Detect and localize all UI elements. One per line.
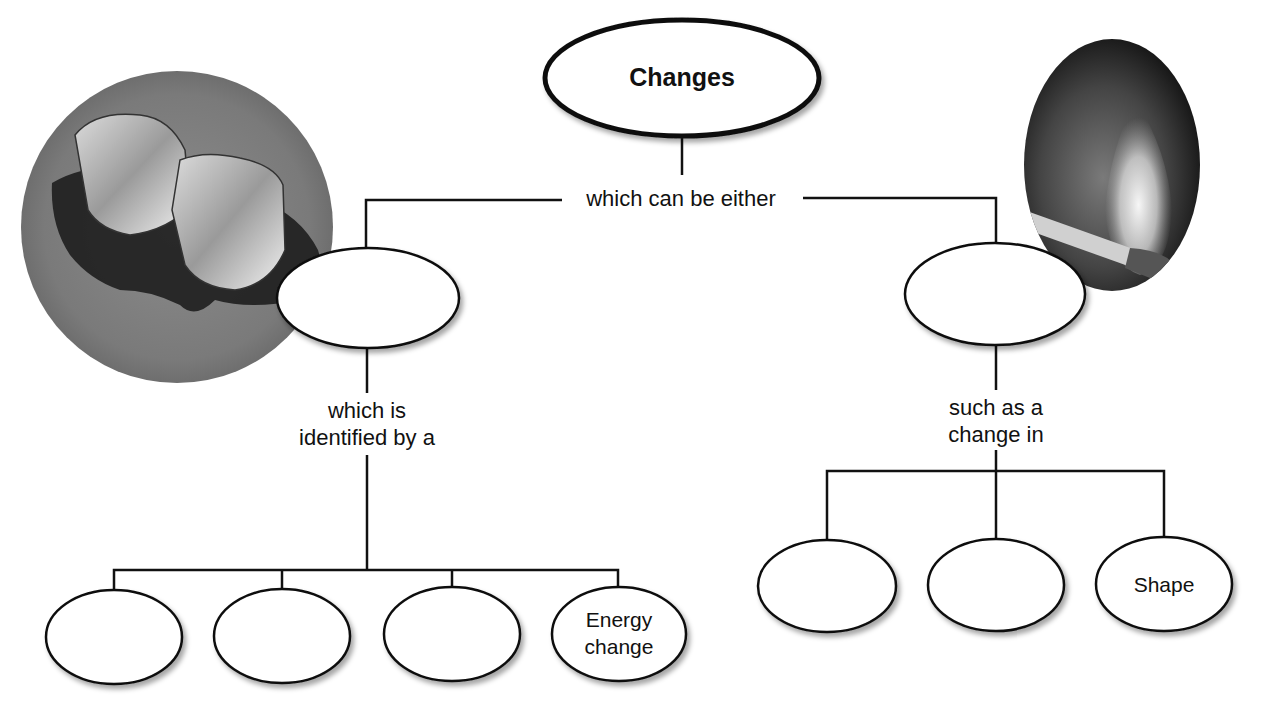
connector-such-as-a: such as a (916, 395, 1076, 421)
node-left-child-2[interactable] (214, 589, 350, 683)
connector-which-is: which is (287, 398, 447, 424)
node-right-child-1[interactable] (758, 540, 896, 632)
ice-cubes-photo (21, 71, 333, 383)
node-left-child-3[interactable] (384, 587, 520, 681)
node-right-blank[interactable] (905, 243, 1085, 345)
concept-map-canvas (0, 0, 1279, 705)
node-right-child-2[interactable] (928, 539, 1064, 631)
connector-identified-by-a: identified by a (287, 425, 447, 451)
title-changes: Changes (612, 64, 752, 90)
connector-which-can-be-either: which can be either (566, 186, 796, 212)
node-left-child-1[interactable] (46, 590, 182, 684)
node-left-blank[interactable] (277, 248, 459, 348)
label-shape: Shape (1114, 572, 1214, 597)
label-change: change (569, 634, 669, 659)
connector-change-in: change in (916, 422, 1076, 448)
label-energy: Energy (569, 607, 669, 632)
